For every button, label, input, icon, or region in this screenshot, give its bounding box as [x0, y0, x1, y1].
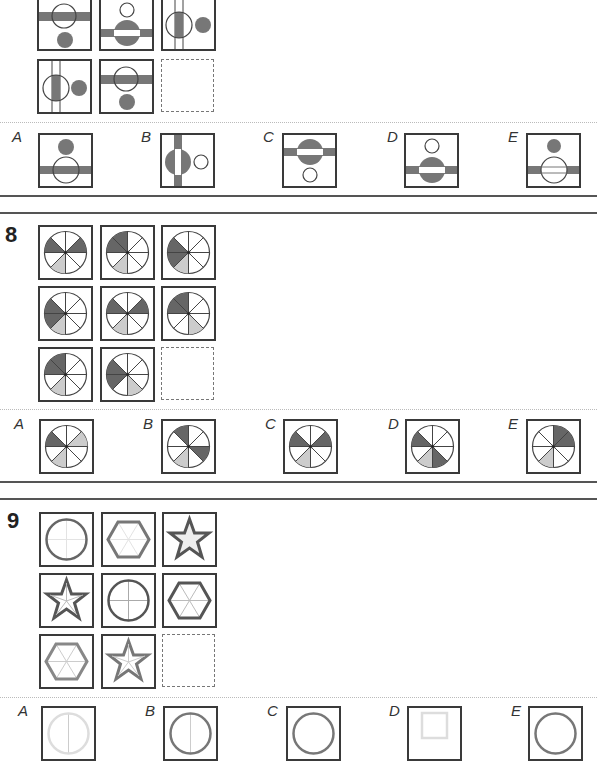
- answer-label: A: [18, 702, 28, 719]
- circle-shape-icon: [165, 708, 216, 759]
- answer-label: D: [388, 415, 399, 432]
- pie-wheel-icon: [41, 421, 92, 472]
- bar-circle-icon: [406, 135, 457, 186]
- puzzle-cell: [39, 634, 94, 689]
- answer-option-d[interactable]: [404, 133, 459, 188]
- answer-option-b[interactable]: [160, 133, 215, 188]
- answer-option-a[interactable]: [38, 133, 93, 188]
- circle-shape-icon: [288, 708, 339, 759]
- bar-circle-icon: [162, 135, 213, 186]
- section-divider: [0, 212, 597, 214]
- answer-option-b[interactable]: [163, 706, 218, 761]
- answer-option-e[interactable]: [528, 706, 583, 761]
- answer-option-c[interactable]: [283, 419, 338, 474]
- pie-wheel-icon: [285, 421, 336, 472]
- answer-option-d[interactable]: [407, 706, 462, 761]
- answer-option-c[interactable]: [286, 706, 341, 761]
- section-divider: [0, 195, 597, 197]
- answer-label: A: [12, 128, 22, 145]
- bar-circle-icon: [40, 135, 91, 186]
- pie-wheel-icon: [163, 227, 214, 278]
- answer-option-e[interactable]: [526, 133, 581, 188]
- pie-wheel-icon: [102, 288, 153, 339]
- answer-label: D: [389, 702, 400, 719]
- answer-label: C: [265, 415, 276, 432]
- pie-wheel-icon: [163, 288, 214, 339]
- star-shape-icon: [103, 636, 154, 687]
- section-divider: [0, 481, 597, 483]
- puzzle-cell: [38, 286, 93, 341]
- bar-circle-icon: [39, 61, 90, 112]
- answer-option-d[interactable]: [405, 419, 460, 474]
- pie-wheel-icon: [528, 421, 579, 472]
- bar-circle-icon: [101, 0, 152, 49]
- answer-label: A: [14, 415, 24, 432]
- question-number: 9: [7, 508, 19, 534]
- puzzle-cell: [162, 512, 217, 567]
- puzzle-cell: [37, 0, 92, 51]
- puzzle-cell: [99, 59, 154, 114]
- answer-label: C: [267, 702, 278, 719]
- answer-option-a[interactable]: [41, 706, 96, 761]
- pie-wheel-icon: [102, 349, 153, 400]
- pie-wheel-icon: [102, 227, 153, 278]
- circle-shape-icon: [41, 514, 92, 565]
- pie-wheel-icon: [40, 288, 91, 339]
- puzzle-cell: [38, 347, 93, 402]
- answer-label: C: [263, 128, 274, 145]
- puzzle-cell: [100, 286, 155, 341]
- star-shape-icon: [41, 575, 92, 626]
- puzzle-cell: [39, 573, 94, 628]
- hexagon-shape-icon: [41, 636, 92, 687]
- circle-shape-icon: [103, 575, 154, 626]
- circle-shape-icon: [530, 708, 581, 759]
- puzzle-cell: [161, 286, 216, 341]
- puzzle-cell: [39, 512, 94, 567]
- answer-label: B: [141, 128, 151, 145]
- divider-dotted: [0, 122, 597, 123]
- puzzle-cell: [100, 225, 155, 280]
- answer-label: E: [508, 128, 518, 145]
- answer-label: E: [508, 415, 518, 432]
- puzzle-cell: [38, 225, 93, 280]
- star-shape-icon: [164, 514, 215, 565]
- hexagon-shape-icon: [164, 575, 215, 626]
- section-divider: [0, 498, 597, 500]
- bar-circle-icon: [101, 61, 152, 112]
- missing-cell: [161, 347, 214, 400]
- missing-cell: [161, 59, 214, 112]
- puzzle-cell: [99, 0, 154, 51]
- puzzle-cell: [101, 634, 156, 689]
- divider-dotted: [0, 697, 597, 698]
- answer-option-e[interactable]: [526, 419, 581, 474]
- question-number: 8: [5, 222, 17, 248]
- bar-circle-icon: [39, 0, 90, 49]
- missing-cell: [162, 634, 215, 687]
- pie-wheel-icon: [163, 421, 214, 472]
- bar-circle-icon: [163, 0, 214, 49]
- puzzle-cell: [100, 347, 155, 402]
- pie-wheel-icon: [40, 227, 91, 278]
- puzzle-cell: [37, 59, 92, 114]
- pie-wheel-icon: [407, 421, 458, 472]
- puzzle-cell: [161, 0, 216, 51]
- puzzle-cell: [101, 512, 156, 567]
- answer-option-b[interactable]: [161, 419, 216, 474]
- divider-dotted: [0, 409, 597, 410]
- puzzle-cell: [162, 573, 217, 628]
- bar-circle-icon: [528, 135, 579, 186]
- answer-option-a[interactable]: [39, 419, 94, 474]
- answer-label: D: [387, 128, 398, 145]
- puzzle-cell: [101, 573, 156, 628]
- bar-circle-icon: [284, 135, 335, 186]
- answer-label: B: [145, 702, 155, 719]
- hexagon-shape-icon: [103, 514, 154, 565]
- answer-option-c[interactable]: [282, 133, 337, 188]
- circle-shape-icon: [43, 708, 94, 759]
- square-shape-icon: [409, 708, 460, 759]
- puzzle-cell: [161, 225, 216, 280]
- answer-label: E: [511, 702, 521, 719]
- pie-wheel-icon: [40, 349, 91, 400]
- answer-label: B: [143, 415, 153, 432]
